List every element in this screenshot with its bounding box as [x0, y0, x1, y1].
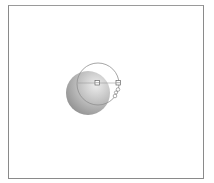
gradient-canvas[interactable]	[0, 0, 214, 183]
angle-handle-icon[interactable]	[114, 91, 117, 94]
focus-handle-icon-2[interactable]	[113, 94, 117, 98]
gradient-sphere[interactable]	[66, 71, 110, 115]
